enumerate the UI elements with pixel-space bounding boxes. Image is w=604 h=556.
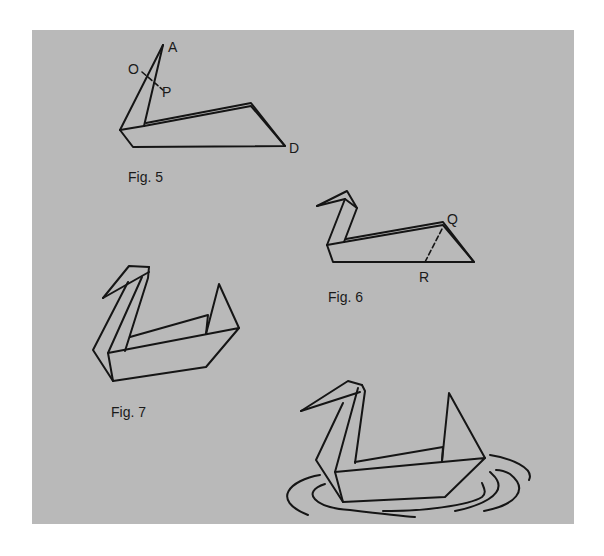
fold-line — [144, 45, 163, 126]
fold-line — [130, 315, 208, 337]
figure-7-folding-step: Fig. 7 — [93, 266, 239, 420]
point-label-a: A — [168, 39, 178, 55]
fig7-fold-lines — [93, 266, 239, 381]
fold-line — [346, 222, 474, 262]
point-label-d: D — [289, 140, 299, 156]
water-ripple — [484, 470, 519, 511]
fig5-fold-lines — [120, 45, 285, 147]
fold-line — [120, 45, 163, 130]
fold-line — [120, 126, 144, 130]
point-label-p: P — [162, 84, 171, 100]
fold-line — [335, 458, 485, 502]
fold-line — [108, 328, 239, 381]
water-ripple — [490, 455, 530, 480]
fold-line — [355, 447, 443, 462]
fold-line — [442, 393, 485, 461]
point-label-r: R — [419, 269, 429, 285]
fold-line — [317, 199, 357, 208]
finished-swan-on-water — [287, 381, 530, 517]
fig6-caption: Fig. 6 — [328, 289, 363, 305]
origami-swan-diagram: Fig. 5 A O P D Fig. 6 Q R Fig. 7 — [0, 0, 604, 556]
point-label-o: O — [128, 61, 139, 77]
fig5-caption: Fig. 5 — [128, 169, 163, 185]
fold-line — [327, 242, 344, 245]
figure-5-folding-step: Fig. 5 A O P D — [120, 39, 299, 185]
swan-outline-lines — [301, 381, 485, 502]
dashed-fold-guide — [425, 227, 443, 262]
fold-line — [206, 284, 239, 334]
water-ripple — [287, 475, 320, 515]
fold-line — [317, 191, 357, 242]
water-ripple — [455, 472, 499, 511]
point-label-q: Q — [447, 211, 458, 227]
fold-line — [327, 199, 345, 245]
fold-line — [146, 103, 285, 146]
fold-line — [301, 392, 360, 411]
fig7-caption: Fig. 7 — [111, 404, 146, 420]
figure-6-folding-step: Fig. 6 Q R — [317, 191, 474, 305]
